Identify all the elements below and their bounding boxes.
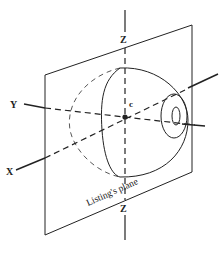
iris: [161, 94, 187, 138]
eyeball-back-dashed: [69, 68, 120, 177]
center-point: [122, 114, 127, 119]
y-axis-label: Y: [10, 99, 18, 110]
plane-label: Listing's plane: [85, 176, 140, 208]
center-label: c: [129, 99, 133, 109]
x-axis-label: X: [6, 166, 14, 177]
y-axis-solid: [24, 104, 45, 108]
x-axis-dashed: [45, 90, 185, 158]
x-axis-solid: [16, 158, 45, 170]
listings-plane: [45, 25, 192, 235]
z-top-label: Z: [120, 34, 127, 45]
z-bottom-label: Z: [120, 203, 127, 214]
listings-plane-diagram: Z Z Y X c Listing's plane: [0, 0, 223, 256]
